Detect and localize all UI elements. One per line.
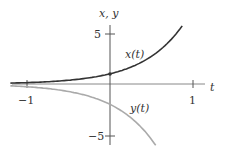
y-curve-label: y(t) [129,102,149,115]
x-initial-point [108,72,112,76]
tick-label-1: 1 [189,94,196,107]
t-axis-label: t [210,81,215,94]
chart: x, y t 5 −5 −1 1 x(t) y(t) [0,0,229,152]
x-curve-label: x(t) [125,48,144,61]
y-axis-label: x, y [99,7,119,20]
tick-label-5: 5 [94,28,101,41]
tick-label-neg5: −5 [88,130,104,143]
tick-label-neg1: −1 [18,94,34,107]
